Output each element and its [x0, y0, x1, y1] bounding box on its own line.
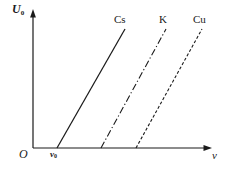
series-line-cu: [136, 29, 202, 148]
series-line-cs: [57, 29, 125, 148]
origin-label: O: [19, 148, 28, 160]
y-axis-arrowhead: [30, 9, 36, 18]
threshold-frequency-tick-label: ν0: [50, 150, 57, 159]
y-axis-label-text: U: [12, 2, 21, 16]
photoelectric-stopping-voltage-chart: U0 ν O ν0 Cs K Cu: [0, 0, 229, 174]
x-axis-label: ν: [212, 150, 217, 161]
series-label-k: K: [159, 14, 167, 25]
y-axis-label-subscript: 0: [21, 9, 25, 17]
y-axis: [30, 9, 36, 148]
plot-area: [0, 0, 229, 174]
series-label-cu: Cu: [193, 14, 206, 25]
threshold-frequency-tick-subscript: 0: [54, 153, 57, 159]
series-label-cs: Cs: [114, 14, 126, 25]
series-line-k: [101, 29, 166, 148]
y-axis-label: U0: [12, 3, 24, 15]
x-axis-arrowhead: [204, 145, 213, 151]
x-axis: [33, 145, 212, 151]
